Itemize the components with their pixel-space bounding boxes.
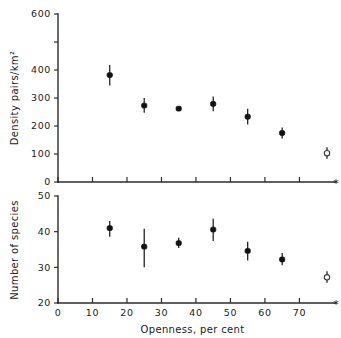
datapoint-top-1 [142,98,147,113]
panel-bottom: 20304050010203040506070*Number of specie… [9,190,339,335]
marker-filled-top-4 [245,114,250,119]
y-ticklabel-top-300: 300 [31,92,51,103]
scatter-plot-svg: 0100200300400600*Density pairs/km²203040… [0,0,341,338]
datapoint-top-2 [176,106,181,111]
x-ticklabel-bottom-10: 10 [86,307,99,318]
datapoint-top-3 [211,97,216,112]
marker-filled-bottom-5 [280,257,285,262]
marker-filled-top-5 [280,131,285,136]
marker-open-bottom-6 [324,275,329,280]
datapoint-bottom-5 [280,253,285,265]
y-ticklabel-top-100: 100 [31,148,51,159]
x-ticklabel-bottom-20: 20 [120,307,133,318]
y-ticklabel-bottom-20: 20 [38,297,51,308]
marker-filled-bottom-0 [107,226,112,231]
x-ticklabel-bottom-70: 70 [293,307,306,318]
figure-container: 0100200300400600*Density pairs/km²203040… [0,0,341,338]
marker-filled-bottom-2 [176,241,181,246]
datapoint-bottom-6 [324,271,329,282]
datapoint-bottom-4 [245,242,250,261]
marker-filled-top-0 [107,73,112,78]
marker-filled-bottom-4 [245,249,250,254]
datapoint-bottom-2 [176,238,181,248]
y-ticklabel-top-0: 0 [44,176,51,187]
x-axis-title: Openness, per cent [141,324,245,335]
marker-filled-bottom-1 [142,244,147,249]
axis-end-asterisk-top: * [333,177,339,190]
x-ticklabel-bottom-0: 0 [55,307,62,318]
marker-filled-top-2 [176,106,181,111]
y-axis-title-bottom: Number of species [9,200,20,299]
marker-filled-top-1 [142,103,147,108]
datapoint-top-0 [107,65,112,85]
y-axis-title-top: Density pairs/km² [9,51,20,146]
y-ticklabel-top-400: 400 [31,64,51,75]
x-ticklabel-bottom-60: 60 [258,307,271,318]
datapoint-bottom-1 [142,229,147,268]
x-ticklabel-bottom-40: 40 [189,307,202,318]
x-ticklabel-bottom-30: 30 [155,307,168,318]
datapoint-top-4 [245,109,250,125]
datapoint-top-6 [324,147,329,158]
y-ticklabel-top-600: 600 [31,8,51,19]
marker-filled-top-3 [211,101,216,106]
y-ticklabel-bottom-50: 50 [38,190,51,201]
datapoint-bottom-3 [211,219,216,241]
x-ticklabel-bottom-50: 50 [224,307,237,318]
y-ticklabel-top-200: 200 [31,120,51,131]
marker-open-top-6 [324,150,329,155]
datapoint-top-5 [280,127,285,138]
datapoint-bottom-0 [107,221,112,237]
panel-top: 0100200300400600*Density pairs/km² [9,8,339,190]
axis-end-asterisk-bottom: * [333,298,339,311]
marker-filled-bottom-3 [211,227,216,232]
y-ticklabel-bottom-40: 40 [38,226,51,237]
y-ticklabel-bottom-30: 30 [38,262,51,273]
